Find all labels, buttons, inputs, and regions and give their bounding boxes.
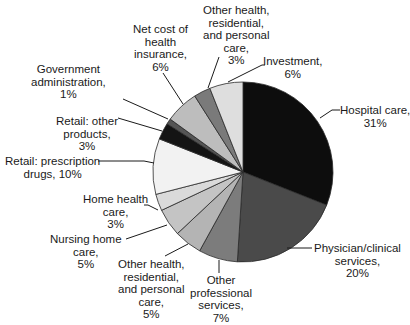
label-hospital-care: Hospital care,31%	[340, 104, 410, 129]
leader-govt-admin	[123, 99, 168, 119]
leader-other-health-5	[165, 244, 188, 256]
leader-investment	[228, 65, 265, 82]
leader-retail-other	[118, 118, 162, 131]
leader-retail-rx	[98, 161, 154, 163]
label-nursing-home: Nursing homecare,5%	[50, 233, 122, 271]
label-other-health-residential-5: Other health,residential,and personalcar…	[118, 258, 185, 321]
pie-slices	[153, 82, 333, 262]
label-net-cost-insurance: Net cost ofhealthinsurance,6%	[133, 23, 188, 73]
label-other-professional: Otherprofessionalservices,7%	[190, 274, 252, 324]
leader-hospital-care	[320, 110, 340, 118]
label-retail-other: Retail: otherproducts,3%	[56, 115, 118, 153]
label-physician-clinical: Physician/clinicalservices,20%	[314, 242, 401, 280]
leader-net-insurance	[163, 73, 183, 104]
label-home-health: Home healthcare,3%	[83, 193, 148, 231]
label-government-administration: Governmentadministration,1%	[31, 63, 106, 101]
label-investment: Investment,6%	[263, 55, 322, 80]
label-retail-prescription: Retail: prescriptiondrugs, 10%	[5, 155, 100, 180]
label-other-health-residential-3: Other health,residential,and personalcar…	[203, 4, 270, 67]
